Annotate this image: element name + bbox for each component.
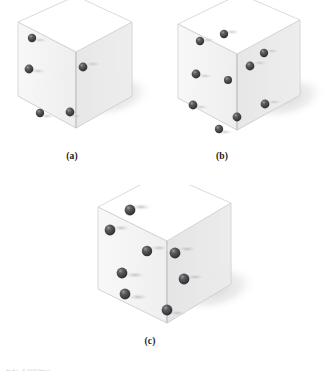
sphere [224,76,232,84]
sphere [260,49,268,57]
sphere [170,248,181,259]
sphere [196,37,204,45]
sphere [79,63,88,72]
panel-a [0,0,160,140]
sphere [66,108,75,117]
sphere [179,274,190,285]
sphere [192,70,201,79]
clipped-caption-region: 21. Third... [6,369,126,380]
sphere [215,125,223,133]
panel-a-label: (a) [52,151,92,161]
panel-c [85,185,255,330]
panel-b-label: (b) [202,151,242,161]
panel-b-illustration [160,0,325,140]
sphere [162,305,173,316]
clipped-caption-text: 21. Third... [6,369,51,373]
sphere [261,100,270,109]
sphere [28,34,36,42]
sphere [117,268,128,279]
sphere [142,246,152,256]
panel-c-illustration [85,185,255,330]
sphere [233,113,242,122]
panel-a-illustration [0,0,160,140]
sphere [246,62,255,71]
sphere [189,101,198,110]
sphere [120,289,131,300]
sphere [25,65,34,74]
panel-c-label: (c) [130,336,170,346]
sphere [105,225,116,236]
figure-three-boxes: (a) (b) (c) 21. Third... [0,0,331,380]
sphere [36,109,44,117]
sphere [220,30,228,38]
panel-b [160,0,325,140]
sphere [125,205,136,216]
